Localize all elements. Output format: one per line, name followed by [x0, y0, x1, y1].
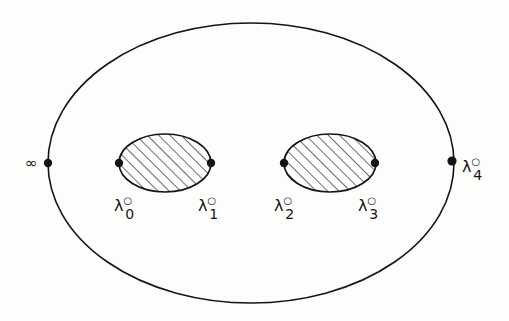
left-hatched-disk	[115, 130, 217, 200]
degree-circle-glyph: ○	[123, 195, 132, 206]
point-lambda-3	[371, 159, 379, 167]
label-lambda-3: λ○3	[358, 197, 385, 218]
lambda-2-subscript: 2	[285, 206, 294, 222]
lambda-4-subscript: 4	[473, 167, 482, 183]
point-lambda-0	[115, 159, 123, 167]
point-infinity	[44, 159, 52, 167]
point-lambda-2	[280, 159, 288, 167]
point-lambda-1	[207, 159, 215, 167]
degree-circle-glyph: ○	[207, 195, 216, 206]
outer-contour	[48, 23, 454, 303]
lambda-1-subscript: 1	[209, 206, 218, 222]
degree-circle-glyph: ○	[367, 195, 376, 206]
lambda-0-subscript: 0	[125, 206, 134, 222]
degree-circle-glyph: ○	[283, 195, 292, 206]
lambda-3-subscript: 3	[369, 206, 378, 222]
label-lambda-4: λ○4	[462, 158, 489, 179]
degree-circle-glyph: ○	[471, 156, 480, 167]
label-lambda-0: λ○0	[114, 197, 141, 218]
right-hatched-disk	[280, 130, 382, 200]
label-infinity: ∞	[25, 156, 38, 171]
label-lambda-1: λ○1	[198, 197, 225, 218]
label-lambda-2: λ○2	[274, 197, 301, 218]
diagram-canvas: ∞ λ○0 λ○1 λ○2 λ○3 λ○4	[0, 0, 509, 321]
point-lambda-4	[447, 156, 456, 165]
diagram-svg	[0, 0, 509, 321]
